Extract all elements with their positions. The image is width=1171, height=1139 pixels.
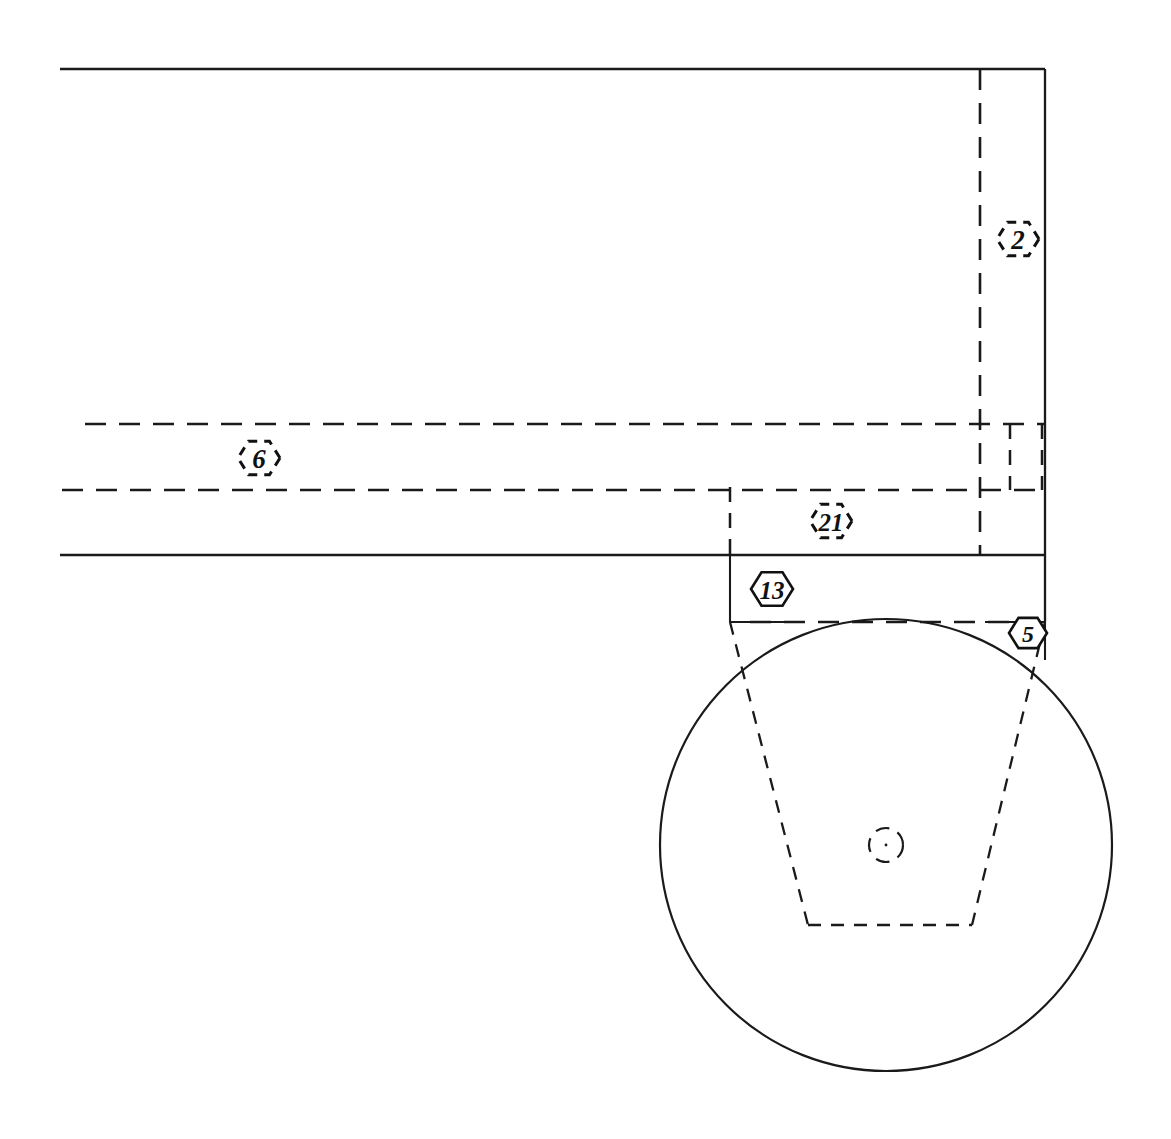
hub-left-taper-line [730,622,808,925]
balloon-label: 2 [1010,225,1025,255]
balloon-callout-6[interactable]: 6 [238,441,280,474]
technical-drawing-sheet: 2621135 [0,0,1171,1139]
body-outline-group [60,69,1045,660]
balloon-callout-13[interactable]: 13 [751,572,793,605]
balloon-label: 5 [1022,621,1034,647]
balloon-label: 13 [760,577,785,604]
balloon-callouts-group: 2621135 [238,222,1047,648]
wheel-center-dot [885,844,888,847]
balloon-label: 6 [252,444,266,474]
balloon-callout-2[interactable]: 2 [997,222,1039,255]
balloon-label: 21 [818,509,844,536]
hidden-lines-group [62,69,1045,555]
drawing-canvas: 2621135 [0,0,1171,1139]
balloon-callout-5[interactable]: 5 [1009,618,1047,648]
hub-right-taper-line [972,622,1045,925]
hub-taper-group [730,622,1045,925]
balloon-callout-21[interactable]: 21 [810,504,852,537]
wheel-group [660,619,1112,1071]
